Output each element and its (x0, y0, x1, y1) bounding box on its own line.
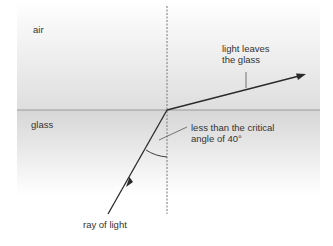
angle-label-line2: angle of 40° (191, 133, 242, 144)
light-leaves-label-line1: light leaves (222, 43, 270, 54)
angle-label-line1: less than the critical (191, 122, 274, 133)
light-leaves-label-line2: the glass (222, 54, 260, 65)
glass-label: glass (31, 119, 53, 130)
air-region (17, 0, 320, 110)
ray-of-light-label: ray of light (83, 219, 127, 230)
glass-region (17, 110, 320, 195)
air-label: air (33, 24, 44, 35)
